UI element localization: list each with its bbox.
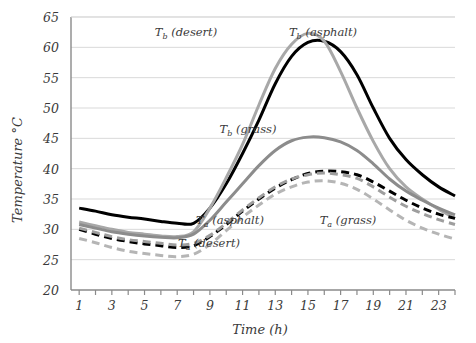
y-tick-label-65: 65: [43, 10, 59, 25]
x-tick-label-3: 3: [108, 298, 116, 313]
y-tick-label-40: 40: [42, 162, 59, 177]
y-axis-title: Temperature °C: [10, 117, 25, 223]
y-tick-label-35: 35: [43, 192, 59, 207]
x-tick-label-1: 1: [75, 298, 83, 313]
x-tick-label-15: 15: [300, 298, 316, 313]
x-tick-label-5: 5: [141, 298, 149, 313]
x-tick-label-19: 19: [365, 298, 381, 313]
y-tick-label-25: 25: [42, 253, 59, 268]
x-tick-label-11: 11: [235, 298, 251, 313]
y-tick-label-45: 45: [42, 131, 59, 146]
y-tick-label-60: 60: [43, 40, 59, 55]
x-tick-label-9: 9: [206, 298, 214, 313]
x-tick-label-17: 17: [333, 298, 349, 313]
x-tick-label-23: 23: [430, 298, 447, 313]
temperature-time-line-chart: 20253035404550556065 1357911131517192123…: [0, 0, 476, 343]
y-tick-label-30: 30: [43, 222, 59, 237]
y-tick-label-55: 55: [43, 71, 59, 86]
x-tick-label-21: 21: [397, 298, 414, 313]
x-tick-label-13: 13: [267, 298, 283, 313]
chart-figure: 20253035404550556065 1357911131517192123…: [0, 0, 476, 343]
y-tick-label-20: 20: [42, 283, 59, 298]
x-axis-title: Time (h): [232, 322, 288, 337]
y-tick-label-50: 50: [43, 101, 59, 116]
x-tick-label-7: 7: [173, 298, 181, 313]
